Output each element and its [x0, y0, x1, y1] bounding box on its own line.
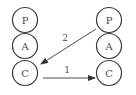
left-node-p-label: P	[22, 15, 29, 26]
left-node-a: A	[13, 34, 38, 59]
edge-2-arrow-icon	[41, 29, 96, 64]
right-stack: P A C	[97, 8, 122, 86]
edge-2-label: 2	[62, 33, 68, 43]
edge-1: 1	[43, 65, 95, 78]
edge-1-label: 1	[64, 65, 70, 75]
left-node-p: P	[13, 8, 38, 33]
left-stack: P A C	[13, 8, 38, 86]
left-node-c: C	[13, 61, 38, 86]
left-node-a-label: A	[20, 41, 29, 52]
right-node-c-label: C	[105, 68, 113, 79]
right-node-p: P	[97, 8, 122, 33]
left-node-c-label: C	[21, 68, 29, 79]
right-node-c: C	[97, 61, 122, 86]
diagram-canvas: P A C P A C 2 1	[0, 0, 136, 95]
right-node-a-label: A	[104, 41, 113, 52]
right-node-p-label: P	[106, 15, 113, 26]
edge-2: 2	[41, 29, 96, 64]
right-node-a: A	[97, 34, 122, 59]
